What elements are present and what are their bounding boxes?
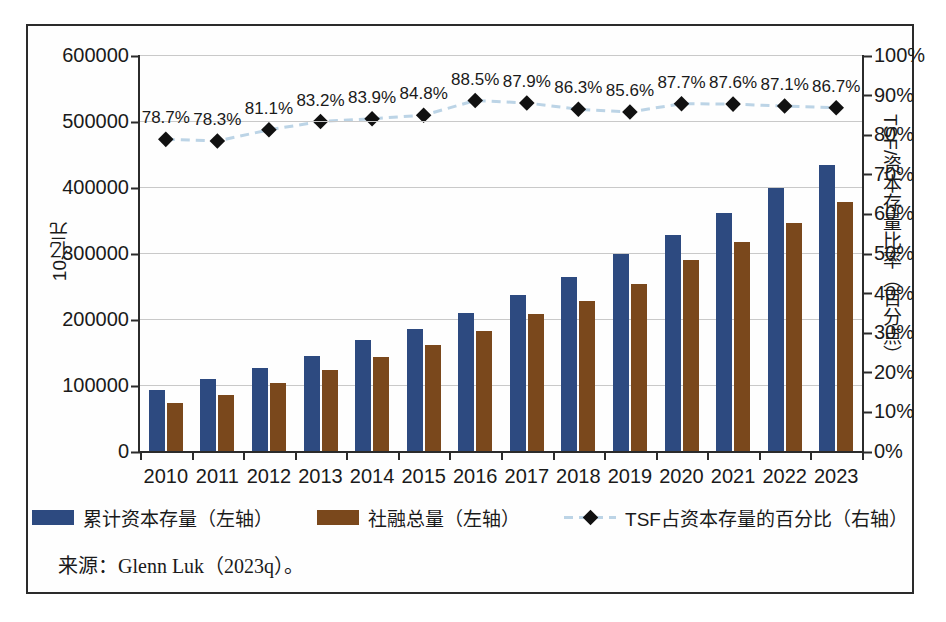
right-axis-tick-label: 70%: [862, 162, 914, 185]
x-axis-tick: [398, 451, 400, 460]
bar-capital-stock: [149, 390, 165, 451]
bar-tsf-total: [425, 345, 441, 451]
legend-label-tsf-total: 社融总量（左轴）: [368, 504, 520, 531]
data-label-tsf-ratio: 88.5%: [451, 70, 499, 90]
diamond-marker-icon: [158, 132, 174, 148]
bar-capital-stock: [819, 165, 835, 451]
right-axis-tick-label: 10%: [862, 400, 914, 423]
x-axis-tick: [501, 451, 503, 460]
x-axis-label: 2010: [144, 465, 189, 488]
bar-capital-stock: [613, 254, 629, 451]
x-axis-tick: [192, 451, 194, 460]
x-axis-tick: [862, 451, 864, 460]
right-axis-tick-label: 40%: [862, 281, 914, 304]
left-axis-tick-label: 200000: [62, 308, 140, 331]
diamond-marker-icon: [622, 104, 638, 120]
x-axis-label: 2015: [401, 465, 446, 488]
data-label-tsf-ratio: 83.9%: [348, 88, 396, 108]
data-label-tsf-ratio: 86.7%: [812, 77, 860, 97]
legend-item-tsf-total[interactable]: 社融总量（左轴）: [317, 504, 520, 531]
diamond-marker-icon: [571, 101, 587, 117]
x-axis-tick: [810, 451, 812, 460]
legend-item-tsf-ratio[interactable]: TSF占资本存量的百分比（右轴）: [564, 504, 908, 531]
x-axis-label: 2023: [814, 465, 859, 488]
diamond-marker-icon: [828, 100, 844, 116]
x-axis-tick: [295, 451, 297, 460]
bar-capital-stock: [304, 356, 320, 451]
diamond-marker-icon: [777, 98, 793, 114]
x-axis-label: 2017: [505, 465, 550, 488]
diamond-marker-icon: [674, 96, 690, 112]
diamond-marker-icon: [582, 510, 598, 526]
bar-tsf-total: [683, 260, 699, 451]
data-label-tsf-ratio: 81.1%: [245, 99, 293, 119]
data-label-tsf-ratio: 78.7%: [142, 108, 190, 128]
diamond-marker-icon: [467, 93, 483, 109]
x-axis-label: 2013: [298, 465, 343, 488]
gridline: [140, 187, 862, 188]
x-axis-label: 2014: [350, 465, 395, 488]
x-axis-tick: [140, 451, 142, 460]
legend-label-capital-stock: 累计资本存量（左轴）: [83, 504, 273, 531]
x-axis-label: 2018: [556, 465, 601, 488]
bar-tsf-total: [476, 331, 492, 451]
data-label-tsf-ratio: 78.3%: [193, 110, 241, 130]
diamond-marker-icon: [725, 96, 741, 112]
chart-legend: 累计资本存量（左轴） 社融总量（左轴） TSF占资本存量的百分比（右轴）: [28, 504, 912, 531]
data-label-tsf-ratio: 87.7%: [657, 73, 705, 93]
gridline: [140, 385, 862, 386]
bar-tsf-total: [579, 301, 595, 451]
bar-tsf-total: [167, 403, 183, 451]
x-axis-tick: [553, 451, 555, 460]
plot-area: 6000005000004000003000002000001000000100…: [138, 55, 864, 453]
right-axis-tick-label: 80%: [862, 123, 914, 146]
gridline: [140, 253, 862, 254]
diamond-marker-icon: [519, 95, 535, 111]
left-axis-tick-label: 500000: [62, 110, 140, 133]
x-axis-tick: [243, 451, 245, 460]
chart-frame: 10亿元 TSF/资本存量比率（百分点） 6000005000004000003…: [26, 24, 914, 594]
diamond-marker-icon: [261, 122, 277, 138]
left-axis-tick-label: 100000: [62, 374, 140, 397]
bar-capital-stock: [510, 295, 526, 451]
x-axis-label: 2020: [659, 465, 704, 488]
bar-capital-stock: [561, 277, 577, 451]
gridline: [140, 319, 862, 320]
x-axis-label: 2021: [711, 465, 756, 488]
legend-swatch-tsf-ratio: [564, 511, 616, 525]
x-axis-tick: [604, 451, 606, 460]
bar-capital-stock: [355, 340, 371, 451]
bar-tsf-total: [631, 284, 647, 451]
diamond-marker-icon: [364, 111, 380, 127]
bar-capital-stock: [716, 213, 732, 451]
bar-capital-stock: [768, 188, 784, 451]
x-axis-tick: [707, 451, 709, 460]
gridline: [140, 121, 862, 122]
x-axis-label: 2016: [453, 465, 498, 488]
x-axis-tick: [346, 451, 348, 460]
bar-tsf-total: [734, 242, 750, 451]
left-axis-tick-label: 0: [118, 440, 140, 463]
x-axis-label: 2019: [608, 465, 653, 488]
data-label-tsf-ratio: 84.8%: [400, 84, 448, 104]
bar-tsf-total: [373, 357, 389, 451]
legend-item-capital-stock[interactable]: 累计资本存量（左轴）: [32, 504, 273, 531]
x-axis-tick: [656, 451, 658, 460]
bar-tsf-total: [786, 223, 802, 451]
x-axis-label: 2011: [196, 465, 239, 488]
data-label-tsf-ratio: 87.9%: [503, 72, 551, 92]
data-label-tsf-ratio: 85.6%: [606, 81, 654, 101]
bar-tsf-total: [528, 314, 544, 451]
right-axis-tick-label: 60%: [862, 202, 914, 225]
right-axis-tick-label: 90%: [862, 83, 914, 106]
bar-capital-stock: [665, 235, 681, 451]
right-axis-tick-label: 20%: [862, 360, 914, 383]
data-label-tsf-ratio: 83.2%: [296, 91, 344, 111]
x-axis-tick: [449, 451, 451, 460]
legend-swatch-capital-stock: [32, 510, 74, 525]
left-axis-tick-label: 600000: [62, 44, 140, 67]
right-axis-tick-label: 0%: [862, 440, 903, 463]
bar-capital-stock: [407, 329, 423, 451]
source-note: 来源：Glenn Luk（2023q）。: [58, 550, 304, 579]
bar-capital-stock: [458, 313, 474, 451]
